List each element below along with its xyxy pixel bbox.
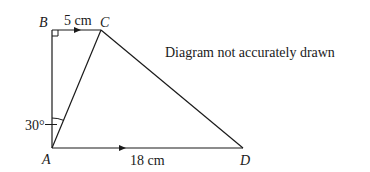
label-b: B xyxy=(39,15,48,30)
angle-arc-a xyxy=(52,118,64,120)
trapezium-diagram: B 5 cm C 30° A 18 cm D Diagram not accur… xyxy=(0,0,370,172)
label-d: D xyxy=(239,153,250,168)
parallel-arrow-ad-icon xyxy=(119,145,126,151)
label-c: C xyxy=(100,15,110,30)
label-angle: 30° xyxy=(25,118,45,133)
label-a: A xyxy=(41,152,51,167)
diagonal-ac xyxy=(52,30,101,148)
label-bc-length: 5 cm xyxy=(64,13,92,28)
label-ad-length: 18 cm xyxy=(130,153,165,168)
diagram-note: Diagram not accurately drawn xyxy=(165,45,335,60)
right-angle-marker xyxy=(52,30,58,36)
